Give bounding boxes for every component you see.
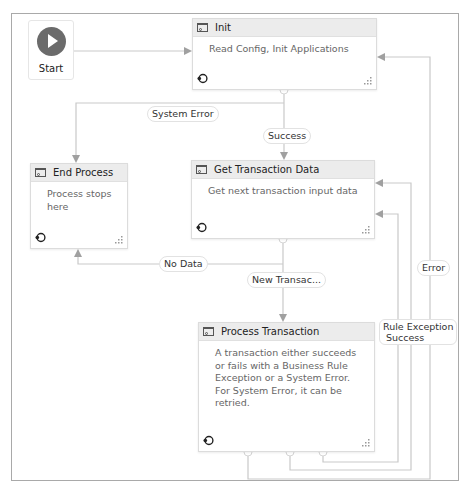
state-end-process[interactable]: End Process Process stops here [30, 163, 128, 249]
entry-icon [196, 222, 207, 233]
state-icon [203, 327, 214, 336]
transition-new-transaction[interactable]: New Transac... [247, 272, 326, 288]
transition-success[interactable]: Success [263, 128, 311, 144]
state-title: Process Transaction [221, 326, 319, 337]
play-icon [37, 27, 66, 56]
entry-icon [35, 232, 46, 243]
transition-success-pt[interactable]: Success [383, 332, 453, 343]
state-header: Init [193, 19, 376, 37]
state-init[interactable]: Init Read Config, Init Applications [192, 18, 377, 90]
transition-no-data[interactable]: No Data [159, 256, 208, 272]
state-description: A transaction either succeeds or fails w… [199, 341, 374, 410]
state-title: Init [215, 22, 231, 33]
state-get-transaction-data[interactable]: Get Transaction Data Get next transactio… [191, 160, 375, 239]
entry-icon [197, 73, 208, 84]
final-state-icon [35, 168, 46, 177]
transition-rule-exception-success[interactable]: Rule Exception Success [379, 319, 457, 345]
state-description: Process stops here [31, 182, 127, 213]
state-header: Process Transaction [199, 323, 374, 341]
state-icon [196, 165, 207, 174]
state-title: Get Transaction Data [214, 164, 319, 175]
transition-error[interactable]: Error [417, 260, 450, 276]
start-node[interactable]: Start [28, 20, 74, 80]
resize-grip-icon[interactable] [115, 236, 123, 244]
resize-grip-icon[interactable] [362, 439, 370, 447]
resize-grip-icon[interactable] [364, 77, 372, 85]
state-header: Get Transaction Data [192, 161, 374, 179]
state-header: End Process [31, 164, 127, 182]
start-label: Start [29, 63, 73, 74]
state-description: Get next transaction input data [192, 179, 374, 198]
transition-rule-exception[interactable]: Rule Exception [383, 321, 453, 332]
resize-grip-icon[interactable] [362, 226, 370, 234]
entry-icon [203, 435, 214, 446]
state-icon [197, 23, 208, 32]
state-process-transaction[interactable]: Process Transaction A transaction either… [198, 322, 375, 452]
transition-system-error[interactable]: System Error [147, 106, 219, 122]
state-description: Read Config, Init Applications [193, 37, 376, 56]
state-title: End Process [53, 167, 113, 178]
